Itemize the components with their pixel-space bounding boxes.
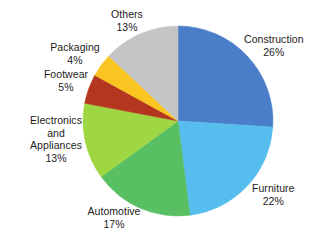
slice-label-electronics: Electronics and Appliances 13% — [14, 114, 98, 164]
slice-label-others: Others 13% — [92, 8, 162, 33]
slice-label-construction-name: Construction — [244, 33, 304, 46]
slice-label-footwear: Footwear 5% — [30, 68, 102, 93]
slice-label-automotive-value: 17% — [72, 218, 156, 231]
slice-label-electronics-name-line3: Appliances — [14, 139, 98, 152]
slice-label-furniture: Furniture 22% — [252, 182, 294, 207]
slice-label-construction: Construction 26% — [244, 33, 304, 58]
pie-chart-figure: Construction 26% Furniture 22% Automotiv… — [0, 0, 328, 239]
slice-label-footwear-value: 5% — [30, 81, 102, 94]
slice-label-footwear-name: Footwear — [30, 68, 102, 81]
slice-label-electronics-name-line1: Electronics — [14, 114, 98, 127]
slice-label-packaging: Packaging 4% — [36, 41, 114, 66]
slice-label-automotive-name: Automotive — [72, 205, 156, 218]
slice-label-packaging-value: 4% — [36, 54, 114, 67]
slice-label-electronics-value: 13% — [14, 152, 98, 165]
slice-label-construction-value: 26% — [244, 46, 304, 59]
slice-label-electronics-name-line2: and — [14, 127, 98, 140]
slice-label-others-value: 13% — [92, 21, 162, 34]
slice-label-furniture-name: Furniture — [252, 182, 294, 195]
slice-label-others-name: Others — [92, 8, 162, 21]
slice-label-packaging-name: Packaging — [36, 41, 114, 54]
slice-label-furniture-value: 22% — [252, 195, 294, 208]
slice-label-automotive: Automotive 17% — [72, 205, 156, 230]
